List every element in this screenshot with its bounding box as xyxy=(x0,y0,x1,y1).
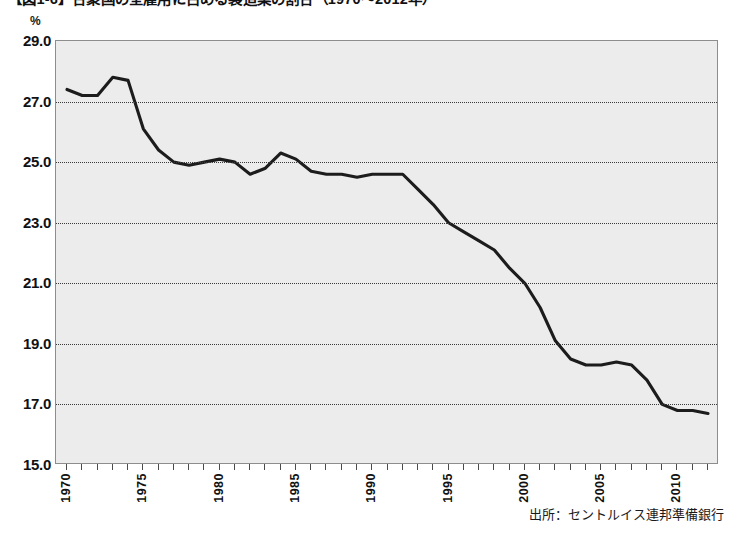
x-tick-2000 xyxy=(524,464,525,470)
y-tick-label-23.0: 23.0 xyxy=(3,213,51,230)
y-tick-label-15.0: 15.0 xyxy=(3,456,51,473)
x-tick-label-1995: 1995 xyxy=(441,473,455,503)
x-tick-1999 xyxy=(509,464,510,470)
x-tick-1986 xyxy=(310,464,311,470)
y-axis: 29.027.025.023.021.019.017.015.0 xyxy=(0,0,51,533)
gridline-19.0 xyxy=(56,344,717,345)
x-tick-1977 xyxy=(173,464,174,470)
x-tick-1996 xyxy=(463,464,464,470)
x-tick-1970 xyxy=(66,464,67,470)
x-tick-1983 xyxy=(264,464,265,470)
x-tick-label-1985: 1985 xyxy=(288,473,302,503)
x-tick-1997 xyxy=(478,464,479,470)
x-tick-1987 xyxy=(325,464,326,470)
x-tick-1978 xyxy=(188,464,189,470)
x-tick-label-1980: 1980 xyxy=(212,473,226,503)
x-tick-1993 xyxy=(417,464,418,470)
x-tick-2011 xyxy=(692,464,693,470)
x-tick-2001 xyxy=(539,464,540,470)
x-tick-1985 xyxy=(295,464,296,470)
x-tick-1998 xyxy=(493,464,494,470)
x-tick-1973 xyxy=(112,464,113,470)
x-tick-label-2010: 2010 xyxy=(669,473,683,503)
y-tick-label-27.0: 27.0 xyxy=(3,92,51,109)
x-tick-1992 xyxy=(402,464,403,470)
manufacturing-share-line xyxy=(67,77,708,413)
y-tick-label-25.0: 25.0 xyxy=(3,153,51,170)
x-tick-2006 xyxy=(615,464,616,470)
gridline-21.0 xyxy=(56,283,717,284)
series-chart xyxy=(56,41,718,464)
x-tick-label-2000: 2000 xyxy=(517,473,531,503)
x-tick-1979 xyxy=(203,464,204,470)
x-tick-1982 xyxy=(249,464,250,470)
x-tick-1991 xyxy=(387,464,388,470)
figure-title: 【図1-6】合衆国の全雇用に占める製造業の割合（1970～2012年） xyxy=(8,0,436,8)
x-tick-1972 xyxy=(97,464,98,470)
x-tick-2007 xyxy=(631,464,632,470)
x-tick-1976 xyxy=(158,464,159,470)
x-tick-2002 xyxy=(554,464,555,470)
x-tick-label-1990: 1990 xyxy=(364,473,378,503)
x-tick-2004 xyxy=(585,464,586,470)
x-tick-1994 xyxy=(432,464,433,470)
x-tick-1990 xyxy=(371,464,372,470)
y-tick-label-29.0: 29.0 xyxy=(3,32,51,49)
plot-area xyxy=(55,40,718,464)
x-tick-1980 xyxy=(219,464,220,470)
y-tick-label-19.0: 19.0 xyxy=(3,334,51,351)
x-tick-2010 xyxy=(676,464,677,470)
x-tick-1974 xyxy=(127,464,128,470)
gridline-27.0 xyxy=(56,102,717,103)
gridline-25.0 xyxy=(56,162,717,163)
gridline-17.0 xyxy=(56,404,717,405)
source-note: 出所：セントルイス連邦準備銀行 xyxy=(529,504,724,523)
x-tick-label-2005: 2005 xyxy=(593,473,607,503)
x-tick-1989 xyxy=(356,464,357,470)
x-tick-2005 xyxy=(600,464,601,470)
y-tick-label-17.0: 17.0 xyxy=(3,395,51,412)
x-tick-1988 xyxy=(341,464,342,470)
x-tick-1981 xyxy=(234,464,235,470)
x-tick-2008 xyxy=(646,464,647,470)
x-tick-label-1970: 1970 xyxy=(59,473,73,503)
x-tick-2012 xyxy=(707,464,708,470)
x-tick-1975 xyxy=(142,464,143,470)
x-tick-1995 xyxy=(448,464,449,470)
x-tick-1971 xyxy=(81,464,82,470)
y-tick-label-21.0: 21.0 xyxy=(3,274,51,291)
gridline-23.0 xyxy=(56,223,717,224)
x-tick-label-1975: 1975 xyxy=(135,473,149,503)
x-tick-1984 xyxy=(280,464,281,470)
x-tick-2003 xyxy=(570,464,571,470)
x-tick-2009 xyxy=(661,464,662,470)
